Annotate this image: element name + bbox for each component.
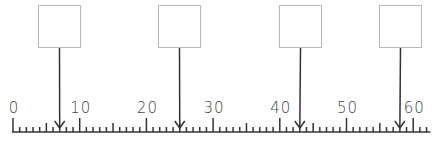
arrow-shaft-4 (400, 48, 401, 128)
arrow-head-icon (295, 121, 300, 128)
arrow-head-icon (60, 121, 65, 128)
arrow-head-icon (395, 121, 400, 128)
arrow-shaft-3 (300, 48, 301, 128)
number-line (0, 0, 433, 150)
